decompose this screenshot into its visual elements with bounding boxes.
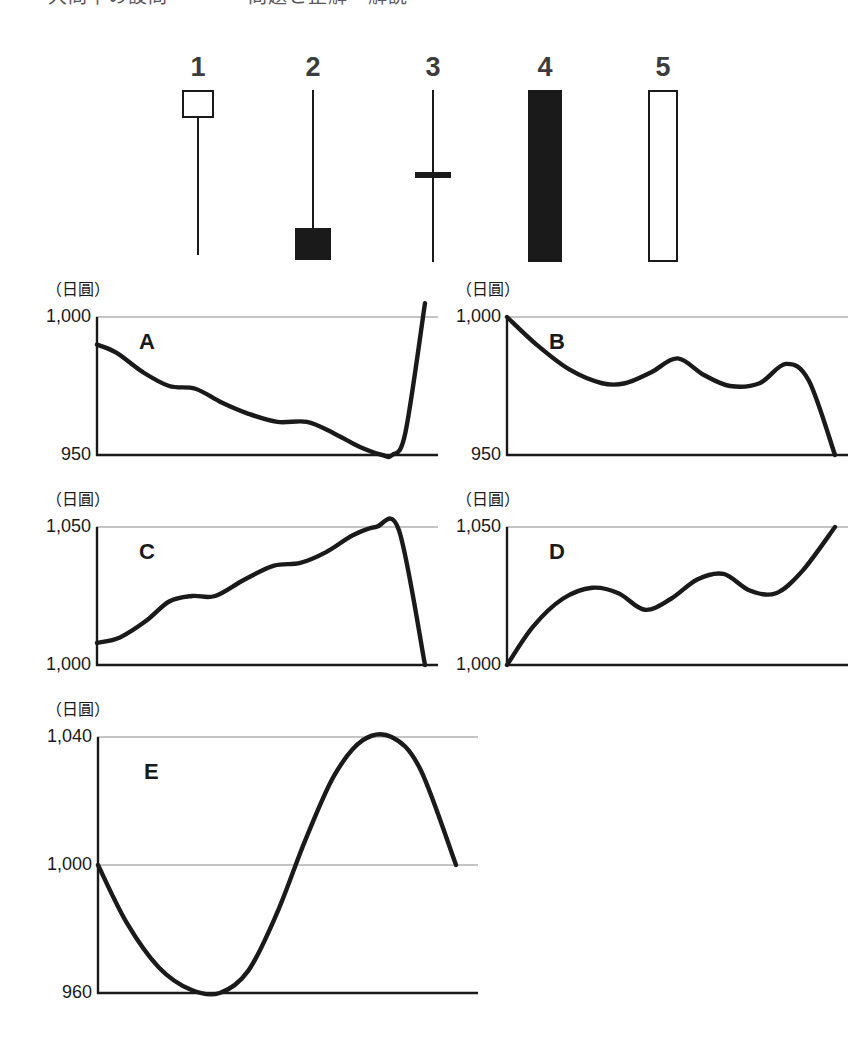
chart-E-y-tick-960: 960 bbox=[38, 982, 92, 1003]
candlestick-label-1: 1 bbox=[143, 52, 253, 83]
candlestick-body-icon bbox=[295, 228, 331, 260]
candlestick-4: 4 bbox=[490, 52, 600, 267]
chart-panel-A: （日圓）1,000950A bbox=[38, 276, 438, 476]
chart-C-y-tick-1000: 1,000 bbox=[38, 654, 91, 675]
candlestick-label-5: 5 bbox=[608, 52, 718, 83]
chart-A-y-tick-1000: 1,000 bbox=[38, 306, 91, 327]
candlestick-body-icon bbox=[528, 90, 562, 262]
candlestick-1: 1 bbox=[143, 52, 253, 267]
candlestick-2: 2 bbox=[258, 52, 368, 267]
chart-A-series-line bbox=[97, 303, 425, 457]
chart-E-y-tick-1000: 1,000 bbox=[38, 854, 92, 875]
chart-B-letter: B bbox=[549, 329, 565, 355]
chart-C-y-tick-1050: 1,050 bbox=[38, 516, 91, 537]
candlestick-label-3: 3 bbox=[378, 52, 488, 83]
candlestick-filled-bottom-long-upper-wick bbox=[258, 90, 368, 267]
chart-C-plot bbox=[38, 486, 438, 686]
chart-D-plot bbox=[448, 486, 848, 686]
candlestick-hollow-top-long-lower-wick bbox=[143, 90, 253, 267]
candlestick-filled-tall-body bbox=[490, 90, 600, 267]
chart-A-letter: A bbox=[139, 329, 155, 355]
chart-panel-E: （日圓）1,0401,000960E bbox=[38, 696, 478, 1016]
chart-D-y-tick-1050: 1,050 bbox=[448, 516, 501, 537]
chart-panel-D: （日圓）1,0501,000D bbox=[448, 486, 848, 686]
chart-B-plot bbox=[448, 276, 848, 476]
chart-panel-B: （日圓）1,000950B bbox=[448, 276, 848, 476]
chart-A-y-tick-950: 950 bbox=[38, 444, 91, 465]
chart-D-letter: D bbox=[549, 539, 565, 565]
candlestick-body-icon bbox=[182, 90, 214, 118]
chart-B-y-tick-1000: 1,000 bbox=[448, 306, 501, 327]
chart-D-y-tick-1000: 1,000 bbox=[448, 654, 501, 675]
candlestick-doji-cross bbox=[378, 90, 488, 267]
candlestick-body-icon bbox=[648, 90, 678, 262]
candlestick-5: 5 bbox=[608, 52, 718, 267]
candlestick-wick-icon bbox=[197, 118, 199, 255]
candlestick-wick-icon bbox=[312, 90, 314, 230]
candlestick-3: 3 bbox=[378, 52, 488, 267]
chart-C-letter: C bbox=[139, 539, 155, 565]
candlestick-label-2: 2 bbox=[258, 52, 368, 83]
chart-E-letter: E bbox=[144, 759, 159, 785]
candlestick-label-4: 4 bbox=[490, 52, 600, 83]
candlestick-hollow-tall-body bbox=[608, 90, 718, 267]
chart-B-y-tick-950: 950 bbox=[448, 444, 501, 465]
chart-E-plot bbox=[38, 696, 478, 1016]
chart-panel-C: （日圓）1,0501,000C bbox=[38, 486, 438, 686]
chart-A-plot bbox=[38, 276, 438, 476]
candlestick-legend-row: 12345 bbox=[0, 0, 864, 272]
chart-E-y-tick-1040: 1,040 bbox=[38, 726, 92, 747]
candlestick-body-icon bbox=[415, 172, 451, 178]
